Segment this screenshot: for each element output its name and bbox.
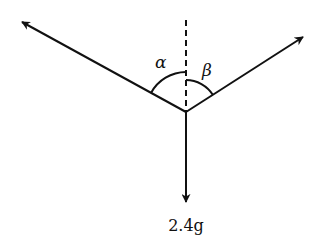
beta-angle-arc [186,80,213,95]
force-diagram: α β 2.4g [0,0,323,246]
beta-label: β [201,60,212,80]
alpha-angle-arc [151,72,186,93]
alpha-label: α [155,52,167,72]
weight-label: 2.4g [168,216,204,235]
